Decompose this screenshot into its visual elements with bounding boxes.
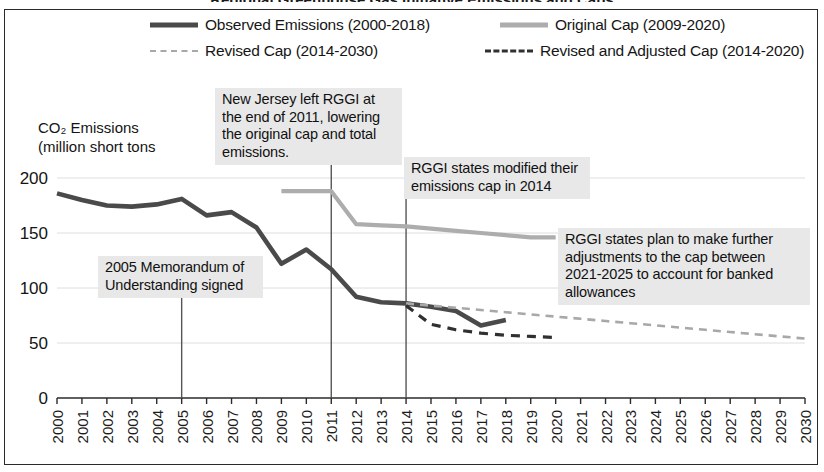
x-tick-label: 2010: [298, 410, 315, 443]
x-tick-label: 2026: [697, 410, 714, 443]
series-line-3: [406, 303, 805, 338]
x-tick-label: 2016: [448, 410, 465, 443]
annotation-cap-modified-2014: RGGI states modified their emissions cap…: [404, 157, 590, 199]
x-tick-label: 2029: [772, 410, 789, 443]
x-tick-label: 2009: [273, 410, 290, 443]
x-tick-label: 2018: [498, 410, 515, 443]
x-tick-label: 2030: [797, 410, 814, 443]
x-tick-label: 2015: [423, 410, 440, 443]
x-tick-label: 2005: [174, 410, 191, 443]
y-tick-label: 0: [39, 389, 48, 408]
annotation-new-jersey: New Jersey left RGGI at the end of 2011,…: [215, 88, 402, 165]
x-tick-label: 2025: [672, 410, 689, 443]
x-tick-label: 2000: [49, 410, 66, 443]
x-tick-label: 2021: [573, 410, 590, 443]
y-tick-label: 100: [20, 279, 48, 298]
x-tick-label: 2024: [647, 410, 664, 443]
x-tick-label: 2011: [323, 410, 340, 442]
x-tick-label: 2008: [248, 410, 265, 443]
x-tick-label: 2007: [224, 410, 241, 443]
x-tick-label: 2028: [747, 410, 764, 443]
x-axis: 2000200120022003200420052006200720082009…: [49, 398, 814, 443]
chart-figure: Regional Greenhouse Gas Initiative Emiss…: [0, 0, 824, 472]
x-tick-label: 2014: [398, 410, 415, 443]
y-axis-ticks: 050100150200: [20, 169, 48, 408]
x-tick-label: 2023: [622, 410, 639, 443]
x-tick-label: 2027: [722, 410, 739, 443]
x-tick-label: 2004: [149, 410, 166, 443]
x-tick-label: 2012: [348, 410, 365, 443]
y-tick-label: 50: [29, 334, 48, 353]
annotation-2005-mou: 2005 Memorandum of Understanding signed: [98, 256, 263, 298]
x-tick-label: 2003: [124, 410, 141, 443]
x-tick-label: 2013: [373, 410, 390, 443]
y-tick-label: 150: [20, 224, 48, 243]
x-tick-label: 2001: [74, 410, 91, 443]
x-tick-label: 2019: [523, 410, 540, 443]
x-tick-label: 2017: [473, 410, 490, 443]
x-tick-label: 2022: [598, 410, 615, 443]
y-tick-label: 200: [20, 169, 48, 188]
x-tick-label: 2006: [199, 410, 216, 443]
annotation-future-adjustments: RGGI states plan to make further adjustm…: [558, 228, 810, 305]
x-tick-label: 2020: [548, 410, 565, 443]
x-tick-label: 2002: [99, 410, 116, 443]
